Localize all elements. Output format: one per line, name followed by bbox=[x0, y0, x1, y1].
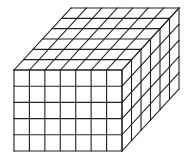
right-face-grid bbox=[122, 8, 179, 151]
front-face-grid bbox=[14, 70, 122, 151]
top-face-grid bbox=[14, 8, 179, 70]
prism-drawing bbox=[0, 0, 191, 167]
cube-prism-figure: Rectangular prism built from unit cubes bbox=[0, 0, 191, 167]
